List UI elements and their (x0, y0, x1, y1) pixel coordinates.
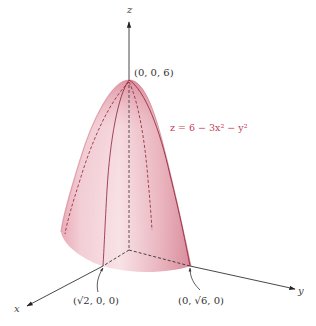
y-intercept-pointer (190, 268, 200, 290)
x-axis-label: x (14, 303, 20, 314)
apex-label: (0, 0, 6) (134, 67, 174, 78)
paraboloid-figure: z x y (0, 0, 6) z = 6 − 3x² − y² (√2, 0,… (0, 0, 316, 326)
y-intercept-label: (0, √6, 0) (178, 295, 224, 306)
equation-label: z = 6 − 3x² − y² (170, 122, 248, 133)
z-axis-label: z (126, 4, 133, 15)
y-axis (190, 266, 295, 289)
y-axis-label: y (297, 285, 304, 296)
x-intercept-label: (√2, 0, 0) (73, 295, 119, 306)
x-intercept-pointer (97, 268, 103, 292)
paraboloid-surface (61, 80, 191, 272)
